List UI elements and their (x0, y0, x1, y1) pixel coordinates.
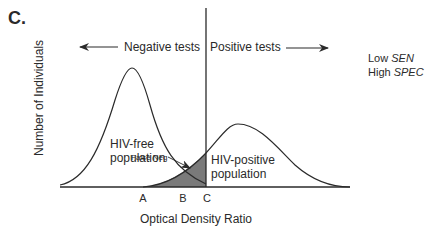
legend-high-spec: High SPEC (368, 66, 424, 78)
hiv-positive-label-line1: HIV-positive (211, 153, 275, 167)
hiv-free-label-line1: HIV-free (110, 137, 154, 151)
y-axis-label: Number of Individuals (32, 40, 46, 156)
tick-b: B (179, 192, 186, 204)
legend-low-sen: Low SEN (368, 52, 414, 64)
false-negative-annotation: False Neg (131, 153, 167, 162)
hiv-positive-label-line2: population (211, 167, 266, 181)
tick-a: A (139, 192, 147, 204)
x-axis-label: Optical Density Ratio (140, 212, 252, 226)
annotation-arrow (168, 157, 190, 168)
panel-label: C. (8, 8, 26, 28)
negative-tests-label: Negative tests (124, 40, 200, 54)
diagram-canvas: C. Negative tests Positive tests Low SEN… (0, 0, 435, 236)
hiv-free-curve (60, 68, 206, 185)
positive-tests-label: Positive tests (210, 40, 281, 54)
tick-c: C (203, 192, 211, 204)
